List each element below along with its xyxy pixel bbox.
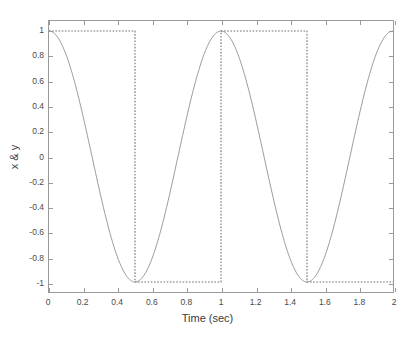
tick-mark-y-left: [49, 183, 53, 184]
tick-mark-y-right: [389, 158, 393, 159]
tick-mark-x-bottom: [153, 288, 154, 292]
tick-mark-y-left: [49, 107, 53, 108]
tick-mark-y-right: [389, 233, 393, 234]
tick-mark-y-left: [49, 284, 53, 285]
tick-mark-x-bottom: [257, 288, 258, 292]
x-tick-label: 1: [219, 298, 224, 307]
y-tick-label: -0.4: [29, 203, 44, 212]
x-tick-label: 1.6: [319, 298, 331, 307]
y-tick-label: 0.6: [32, 76, 44, 85]
y-tick-label: -0.6: [29, 228, 44, 237]
tick-mark-x-bottom: [360, 288, 361, 292]
tick-mark-x-top: [257, 21, 258, 25]
x-tick-label: 0.8: [180, 298, 192, 307]
tick-mark-y-right: [389, 208, 393, 209]
tick-mark-x-bottom: [291, 288, 292, 292]
tick-mark-y-right: [389, 56, 393, 57]
tick-mark-x-top: [395, 21, 396, 25]
tick-mark-y-right: [389, 107, 393, 108]
x-axis-label: Time (sec): [0, 312, 415, 324]
tick-mark-x-bottom: [395, 288, 396, 292]
y-tick-label: 0.8: [32, 51, 44, 60]
y-tick-label: -0.2: [29, 178, 44, 187]
x-tick-label: 0.6: [146, 298, 158, 307]
tick-mark-y-right: [389, 183, 393, 184]
x-tick-label: 1.2: [250, 298, 262, 307]
tick-mark-x-bottom: [118, 288, 119, 292]
tick-mark-y-right: [389, 132, 393, 133]
y-tick-label: 0.4: [32, 102, 44, 111]
tick-mark-y-left: [49, 132, 53, 133]
tick-mark-x-bottom: [84, 288, 85, 292]
tick-mark-x-bottom: [187, 288, 188, 292]
x-tick-label: 0.4: [111, 298, 123, 307]
tick-mark-y-left: [49, 82, 53, 83]
chart-figure: 00.20.40.60.811.21.41.61.82 10.80.60.40.…: [0, 0, 415, 338]
tick-mark-x-top: [291, 21, 292, 25]
tick-mark-y-left: [49, 233, 53, 234]
y-tick-label: 0.2: [32, 127, 44, 136]
y-tick-label: -1: [36, 279, 44, 288]
tick-mark-x-top: [187, 21, 188, 25]
y-tick-label: -0.8: [29, 253, 44, 262]
tick-mark-y-right: [389, 284, 393, 285]
tick-mark-y-left: [49, 158, 53, 159]
x-tick-label: 2: [392, 298, 397, 307]
plot-svg: [49, 21, 393, 292]
tick-mark-x-bottom: [222, 288, 223, 292]
tick-mark-y-right: [389, 31, 393, 32]
tick-mark-y-left: [49, 259, 53, 260]
x-tick-label: 0.2: [77, 298, 89, 307]
y-axis-label: x & y: [8, 145, 20, 169]
tick-mark-x-top: [49, 21, 50, 25]
tick-mark-x-bottom: [326, 288, 327, 292]
tick-mark-y-left: [49, 56, 53, 57]
y-tick-label: 1: [39, 26, 44, 35]
y-axis-label-wrapper: x & y: [6, 0, 22, 338]
y-tick-label: 0: [39, 152, 44, 161]
x-tick-label: 1.4: [284, 298, 296, 307]
tick-mark-x-top: [84, 21, 85, 25]
tick-mark-x-top: [153, 21, 154, 25]
x-tick-label: 1.8: [353, 298, 365, 307]
series-group: [49, 31, 393, 282]
tick-mark-y-right: [389, 259, 393, 260]
tick-mark-x-top: [360, 21, 361, 25]
tick-mark-y-right: [389, 82, 393, 83]
tick-mark-x-top: [326, 21, 327, 25]
tick-mark-y-left: [49, 208, 53, 209]
tick-mark-x-top: [118, 21, 119, 25]
x-tick-label: 0: [46, 298, 51, 307]
series-line-y: [49, 31, 393, 282]
tick-mark-x-top: [222, 21, 223, 25]
tick-mark-y-left: [49, 31, 53, 32]
plot-area: [48, 20, 394, 293]
tick-mark-x-bottom: [49, 288, 50, 292]
